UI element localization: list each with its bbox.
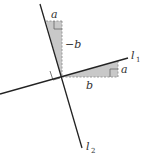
label-line-l1: l <box>131 49 135 62</box>
label-l2-triangle-side: −b <box>65 38 81 51</box>
label-line-l2: l <box>86 140 90 153</box>
label-line-l1-subscript: 1 <box>136 56 140 64</box>
label-line-l2-subscript: 2 <box>91 147 95 155</box>
perpendicular-lines-diagram: a −b a b l 1 l 2 <box>0 0 145 155</box>
label-l1-triangle-rise: a <box>121 63 128 76</box>
label-l2-triangle-top: a <box>51 8 58 21</box>
label-l1-triangle-run: b <box>86 79 93 92</box>
